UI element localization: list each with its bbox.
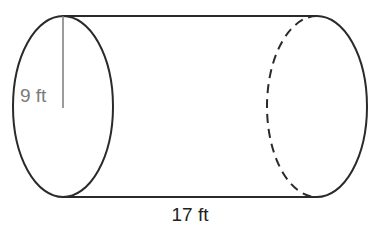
cylinder-right-face-visible (317, 16, 367, 197)
cylinder-right-face-hidden (267, 16, 317, 197)
cylinder-diagram: 9 ft 17 ft (0, 0, 377, 230)
radius-label: 9 ft (20, 85, 47, 106)
length-label: 17 ft (172, 204, 210, 225)
